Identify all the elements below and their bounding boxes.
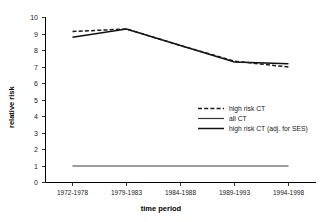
y-tick-label-10: 10 <box>30 14 38 21</box>
y-axis-title: relative risk <box>7 85 16 128</box>
chart-page: 10 9 8 7 6 5 4 3 2 1 0 relative risk 197… <box>0 0 323 222</box>
x-tick-label-1984-1988: 1984-1988 <box>165 189 196 196</box>
y-tick-label-8: 8 <box>34 47 38 54</box>
y-tick-label-2: 2 <box>34 146 38 153</box>
y-tick-label-0: 0 <box>34 179 38 186</box>
y-tick-label-6: 6 <box>34 80 38 87</box>
legend-label-all-ct: all CT <box>229 115 247 122</box>
x-tick-label-1979-1983: 1979-1983 <box>111 189 142 196</box>
y-tick-label-1: 1 <box>34 163 38 170</box>
y-tick-label-4: 4 <box>34 113 38 120</box>
y-tick-label-5: 5 <box>34 97 38 104</box>
legend-label-high-risk-ct: high risk CT <box>229 105 265 113</box>
x-tick-label-1994-1998: 1994-1998 <box>273 189 304 196</box>
legend-label-high-risk-ct-adj-ses: high risk CT (adj. for SES) <box>229 125 308 133</box>
x-tick-label-1972-1978: 1972-1978 <box>57 189 88 196</box>
relative-risk-line-chart: 10 9 8 7 6 5 4 3 2 1 0 relative risk 197… <box>0 0 323 222</box>
y-tick-label-9: 9 <box>34 31 38 38</box>
y-tick-label-3: 3 <box>34 130 38 137</box>
y-tick-label-7: 7 <box>34 64 38 71</box>
x-tick-label-1989-1993: 1989-1993 <box>219 189 250 196</box>
x-axis-title: time period <box>141 204 182 213</box>
